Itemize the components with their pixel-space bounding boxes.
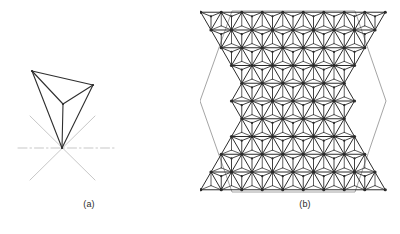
lattice-edge-6: [232, 12, 242, 30]
lattice-edge-64: [303, 48, 313, 66]
lattice-edge-201: [303, 172, 313, 190]
lattice-edge-153: [293, 137, 303, 155]
lattice-motif-node: [282, 140, 284, 142]
lattice-motif-node: [364, 175, 366, 177]
lattice-edge-75: [242, 65, 252, 83]
lattice-edge-13: [283, 12, 293, 30]
lattice-edge-110: [242, 101, 252, 119]
lattice-edge-66: [314, 48, 324, 66]
lattice-edge-100: [293, 83, 303, 101]
lattice-motif-node: [271, 15, 273, 17]
lattice-edge-114: [273, 101, 283, 119]
lattice-motif-node: [251, 157, 253, 159]
lattice-motif-node: [333, 15, 335, 17]
lattice-edge-54: [232, 48, 242, 66]
lattice-node: [261, 188, 264, 191]
tetrahedron-edge-2: [32, 71, 63, 104]
lattice-edge-143: [221, 137, 231, 155]
lattice-motif-node: [353, 15, 355, 17]
lattice-node: [332, 135, 335, 138]
caption-panel-b: (b): [275, 199, 335, 209]
lattice-motif-node: [251, 51, 253, 53]
lattice-motif-node: [282, 33, 284, 35]
lattice-node: [353, 135, 356, 138]
lattice-node: [220, 188, 223, 191]
lattice-edge-73: [232, 65, 242, 83]
lattice-edge-167: [242, 154, 252, 172]
lattice-node: [332, 28, 335, 31]
lattice-motif-node: [271, 51, 273, 53]
lattice-edge-69: [334, 48, 344, 66]
lattice-node: [291, 170, 294, 173]
lattice-edge-104: [324, 83, 334, 101]
lattice-node: [281, 188, 284, 191]
tetrahedron-vertex-top_right: [92, 84, 94, 86]
lattice-edge-172: [273, 154, 283, 172]
lattice-node: [250, 170, 253, 173]
lattice-motif-node: [292, 51, 294, 53]
lattice-node: [291, 135, 294, 138]
lattice-motif-node: [230, 51, 232, 53]
lattice-node: [240, 117, 243, 120]
lattice-motif-node: [282, 69, 284, 71]
lattice-motif-node: [343, 104, 345, 106]
lattice-edge-161: [355, 137, 365, 155]
lattice-motif-node: [251, 15, 253, 17]
lattice-motif-node: [292, 86, 294, 88]
lattice-edge-45: [324, 30, 334, 48]
lattice-edge-183: [355, 154, 365, 172]
lattice-edge-84: [303, 65, 313, 83]
lattice-edge-129: [252, 119, 262, 137]
lattice-motif-node: [343, 69, 345, 71]
lattice-edge-101: [303, 83, 313, 101]
lattice-edge-181: [334, 154, 344, 172]
lattice-motif-node: [220, 175, 222, 177]
lattice-motif-node: [292, 122, 294, 124]
lattice-edge-43: [314, 30, 324, 48]
lattice-motif-node: [323, 175, 325, 177]
lattice-node: [240, 82, 243, 85]
lattice-node: [261, 11, 264, 14]
lattice-edge-132: [273, 119, 283, 137]
lattice-motif-node: [241, 175, 243, 177]
lattice-motif-node: [312, 51, 314, 53]
lattice-node: [312, 99, 315, 102]
lattice-edge-92: [242, 83, 252, 101]
lattice-edge-179: [324, 154, 334, 172]
lattice-edge-139: [324, 119, 334, 137]
lattice-node: [281, 82, 284, 85]
lattice-edge-63: [293, 48, 303, 66]
lattice-node: [302, 82, 305, 85]
tetrahedron-vertex-mid_back: [62, 103, 64, 105]
lattice-node: [312, 28, 315, 31]
lattice-edge-193: [252, 172, 262, 190]
lattice-motif-node: [251, 86, 253, 88]
lattice-node: [353, 64, 356, 67]
lattice-edge-94: [252, 83, 262, 101]
lattice-node: [343, 117, 346, 120]
lattice-node: [353, 170, 356, 173]
lattice-node: [373, 28, 376, 31]
lattice-edge-95: [262, 83, 272, 101]
lattice-motif-node: [261, 69, 263, 71]
lattice-edge-34: [252, 30, 262, 48]
lattice-node: [261, 82, 264, 85]
lattice-node: [322, 11, 325, 14]
lattice-motif-node: [333, 122, 335, 124]
lattice-node: [230, 99, 233, 102]
lattice-motif-node: [241, 140, 243, 142]
figure-root: (a) (b): [0, 0, 400, 234]
lattice-edge-127: [242, 119, 252, 137]
lattice-node: [271, 28, 274, 31]
lattice-node: [271, 135, 274, 138]
lattice-node: [250, 64, 253, 67]
lattice-motif-node: [333, 51, 335, 53]
lattice-edge-176: [303, 154, 313, 172]
lattice-edge-31: [232, 30, 242, 48]
lattice-node: [250, 99, 253, 102]
lattice-motif-node: [271, 86, 273, 88]
lattice-edge-15: [293, 12, 303, 30]
lattice-node: [240, 11, 243, 14]
lattice-node: [332, 99, 335, 102]
lattice-node: [220, 46, 223, 49]
